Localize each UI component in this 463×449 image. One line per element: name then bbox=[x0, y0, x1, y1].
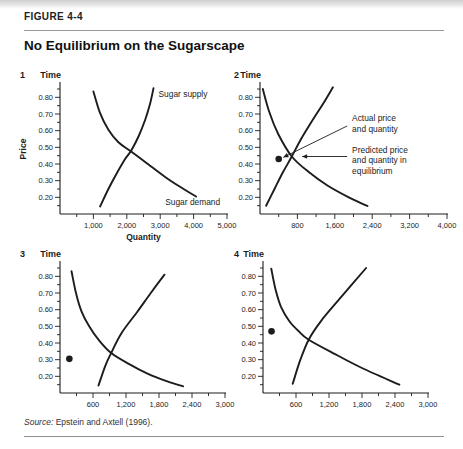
svg-text:0.30: 0.30 bbox=[238, 176, 253, 185]
svg-text:0.70: 0.70 bbox=[38, 110, 53, 119]
bottom-divider bbox=[24, 436, 444, 437]
svg-text:1,000: 1,000 bbox=[84, 221, 103, 230]
top-divider bbox=[24, 30, 444, 31]
svg-text:4: 4 bbox=[234, 249, 239, 259]
svg-text:0.20: 0.20 bbox=[241, 372, 256, 381]
chart-2-panel: 2Time0.200.300.400.500.600.700.808001,60… bbox=[226, 64, 462, 242]
svg-text:0.40: 0.40 bbox=[238, 160, 253, 169]
svg-text:0.60: 0.60 bbox=[38, 126, 53, 135]
svg-text:and quantity in: and quantity in bbox=[352, 155, 407, 165]
svg-text:Actual price: Actual price bbox=[352, 113, 396, 123]
svg-text:0.20: 0.20 bbox=[38, 372, 53, 381]
svg-text:0.70: 0.70 bbox=[241, 289, 256, 298]
svg-text:0.80: 0.80 bbox=[38, 93, 53, 102]
svg-text:0.40: 0.40 bbox=[38, 160, 53, 169]
svg-text:0.60: 0.60 bbox=[38, 305, 53, 314]
svg-text:0.50: 0.50 bbox=[38, 143, 53, 152]
svg-text:3: 3 bbox=[20, 249, 25, 259]
svg-text:600: 600 bbox=[290, 400, 303, 409]
svg-text:1,200: 1,200 bbox=[117, 400, 136, 409]
svg-text:Sugar supply: Sugar supply bbox=[159, 89, 209, 99]
svg-text:2,400: 2,400 bbox=[386, 400, 405, 409]
svg-text:Time: Time bbox=[40, 249, 61, 259]
svg-text:0.50: 0.50 bbox=[238, 143, 253, 152]
svg-text:equilibrium: equilibrium bbox=[352, 166, 393, 176]
svg-text:2,000: 2,000 bbox=[117, 221, 136, 230]
svg-text:0.60: 0.60 bbox=[238, 126, 253, 135]
svg-text:3,000: 3,000 bbox=[419, 400, 438, 409]
svg-text:1,600: 1,600 bbox=[325, 221, 344, 230]
svg-text:0.30: 0.30 bbox=[241, 355, 256, 364]
figure-label: FIGURE 4-4 bbox=[24, 11, 83, 22]
svg-text:Time: Time bbox=[240, 70, 261, 80]
svg-text:0.70: 0.70 bbox=[238, 110, 253, 119]
svg-text:1,800: 1,800 bbox=[353, 400, 372, 409]
chart-4-panel: 4Time0.200.300.400.500.600.700.806001,20… bbox=[226, 243, 462, 421]
svg-text:0.50: 0.50 bbox=[241, 322, 256, 331]
chart-1-panel: 1Time0.200.300.400.500.600.700.801,0002,… bbox=[10, 64, 240, 242]
svg-text:1: 1 bbox=[20, 70, 25, 80]
source-label: Source: bbox=[24, 417, 53, 427]
svg-text:1,200: 1,200 bbox=[320, 400, 339, 409]
svg-text:Predicted price: Predicted price bbox=[352, 145, 408, 155]
svg-text:0.30: 0.30 bbox=[38, 355, 53, 364]
svg-text:800: 800 bbox=[291, 221, 304, 230]
svg-text:Time: Time bbox=[243, 249, 264, 259]
svg-text:3,200: 3,200 bbox=[400, 221, 419, 230]
svg-text:4,000: 4,000 bbox=[184, 221, 203, 230]
chart-3-panel: 3Time0.200.300.400.500.600.700.806001,20… bbox=[10, 243, 240, 421]
svg-text:0.80: 0.80 bbox=[241, 272, 256, 281]
svg-text:0.70: 0.70 bbox=[38, 289, 53, 298]
svg-text:Quantity: Quantity bbox=[126, 232, 161, 242]
svg-text:0.80: 0.80 bbox=[38, 272, 53, 281]
svg-text:Sugar demand: Sugar demand bbox=[165, 197, 220, 207]
svg-text:0.40: 0.40 bbox=[241, 339, 256, 348]
svg-text:0.20: 0.20 bbox=[38, 193, 53, 202]
page-top-edge bbox=[0, 0, 463, 9]
svg-text:2,400: 2,400 bbox=[363, 221, 382, 230]
svg-text:0.80: 0.80 bbox=[238, 93, 253, 102]
svg-text:Time: Time bbox=[40, 70, 61, 80]
svg-text:0.30: 0.30 bbox=[38, 176, 53, 185]
svg-text:0.60: 0.60 bbox=[241, 305, 256, 314]
svg-text:0.50: 0.50 bbox=[38, 322, 53, 331]
svg-text:600: 600 bbox=[87, 400, 100, 409]
svg-text:and quantity: and quantity bbox=[352, 124, 398, 134]
svg-text:3,000: 3,000 bbox=[151, 221, 170, 230]
source-text: Epstein and Axtell (1996). bbox=[56, 417, 153, 427]
svg-text:0.20: 0.20 bbox=[238, 193, 253, 202]
svg-text:0.40: 0.40 bbox=[38, 339, 53, 348]
svg-text:2: 2 bbox=[234, 70, 239, 80]
source-note: Source: Epstein and Axtell (1996). bbox=[24, 417, 153, 427]
svg-text:4,000: 4,000 bbox=[438, 221, 457, 230]
figure-title: No Equilibrium on the Sugarscape bbox=[24, 38, 245, 53]
svg-text:2,400: 2,400 bbox=[183, 400, 202, 409]
svg-text:1,800: 1,800 bbox=[150, 400, 169, 409]
figure-page: { "style": {"ink": "#1c1c1c", "rule": "#… bbox=[0, 0, 463, 449]
svg-text:Price: Price bbox=[18, 138, 28, 159]
